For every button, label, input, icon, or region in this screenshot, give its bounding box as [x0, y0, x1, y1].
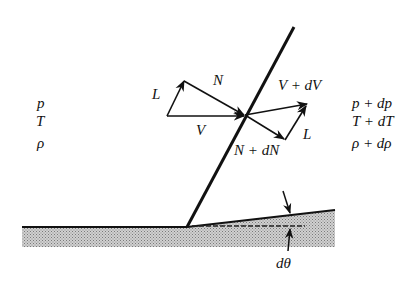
vector-l-upstream — [167, 81, 184, 116]
upstream-v-label: V — [196, 123, 205, 138]
vector-n-downstream — [245, 115, 284, 139]
expansion-wave-diagram: p T ρ p + dp T + dT ρ + dρ L N V V + dV … — [0, 0, 420, 282]
upstream-n-label: N — [213, 73, 223, 88]
downstream-pressure-label: p + dp — [352, 96, 392, 111]
upstream-density-label: ρ — [37, 136, 44, 151]
angle-arrow-top — [283, 191, 290, 213]
deflection-angle-label: dθ — [276, 256, 291, 271]
downstream-temperature-label: T + dT — [352, 114, 394, 129]
upstream-l-label: L — [152, 87, 160, 102]
vector-v-downstream — [245, 104, 307, 115]
upstream-pressure-label: p — [37, 96, 45, 111]
upstream-temperature-label: T — [36, 114, 44, 129]
downstream-l-label: L — [303, 127, 311, 142]
downstream-n-label: N + dN — [234, 143, 279, 158]
downstream-v-label: V + dV — [278, 78, 321, 93]
downstream-density-label: ρ + dρ — [352, 136, 392, 151]
